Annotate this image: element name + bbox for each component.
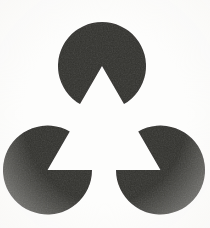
kanizsa-triangle-figure xyxy=(0,0,210,228)
figure-svg-canvas xyxy=(0,0,210,228)
